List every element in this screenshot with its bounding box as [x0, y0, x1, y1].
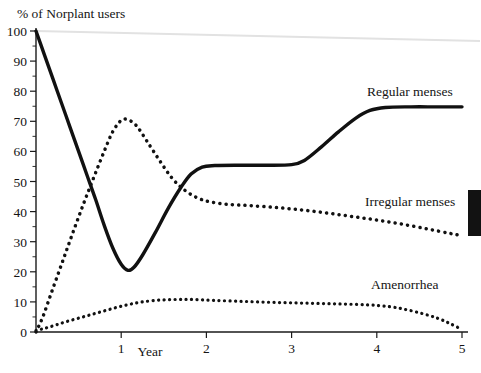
- y-axis-title: % of Norplant users: [17, 6, 125, 22]
- y-axis: 0102030405060708090100: [7, 24, 36, 340]
- y-tick-label-80: 80: [14, 84, 28, 99]
- series-label-irregular-menses: Irregular menses: [365, 194, 455, 210]
- series-label-amenorrhea: Amenorrhea: [371, 277, 438, 293]
- x-tick-label-4: 4: [373, 341, 380, 356]
- y-tick-label-70: 70: [14, 114, 28, 129]
- y-tick-label-0: 0: [20, 325, 27, 340]
- series-line-regular-menses: [36, 31, 462, 270]
- y-tick-label-50: 50: [14, 175, 28, 190]
- series-line-amenorrhea: [36, 299, 462, 330]
- y-tick-label-40: 40: [14, 205, 28, 220]
- page-edge-artifact-block: [468, 190, 481, 236]
- scan-artifact-line: [36, 31, 480, 41]
- series-line-irregular-menses: [36, 119, 462, 332]
- line-chart-plot: 0102030405060708090100 12345: [0, 0, 481, 373]
- y-tick-label-100: 100: [7, 24, 28, 39]
- y-tick-label-20: 20: [14, 265, 28, 280]
- x-axis-title: Year: [0, 344, 300, 360]
- y-tick-label-60: 60: [14, 144, 28, 159]
- y-tick-label-90: 90: [14, 54, 28, 69]
- chart-container: 0102030405060708090100 12345 % of Norpla…: [0, 0, 481, 373]
- series-label-regular-menses: Regular menses: [367, 84, 453, 100]
- y-tick-label-30: 30: [14, 235, 28, 250]
- y-tick-label-10: 10: [14, 295, 28, 310]
- x-tick-label-5: 5: [459, 341, 466, 356]
